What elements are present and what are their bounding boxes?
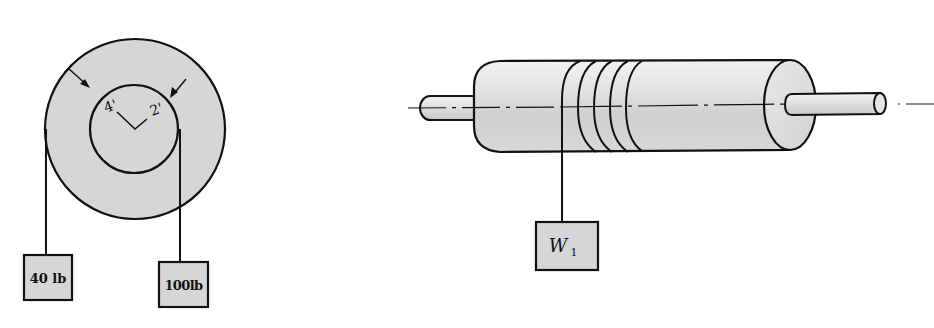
drum-axle-figure: W 1 (408, 60, 934, 270)
weight-w1-subscript: 1 (571, 246, 578, 259)
weight-w1: W 1 (536, 222, 598, 270)
weight-w1-label: W (549, 235, 569, 256)
stepped-pulley-figure: 4' 2' 40 lb 100lb (24, 39, 225, 307)
right-shaft (785, 93, 880, 115)
weight-100lb: 100lb (159, 262, 208, 307)
weight-100lb-label: 100lb (164, 278, 203, 293)
diagram-canvas: 4' 2' 40 lb 100lb (0, 0, 934, 328)
weight-40lb: 40 lb (24, 255, 72, 300)
weight-40lb-label: 40 lb (30, 271, 67, 286)
right-shaft-end (874, 93, 886, 114)
